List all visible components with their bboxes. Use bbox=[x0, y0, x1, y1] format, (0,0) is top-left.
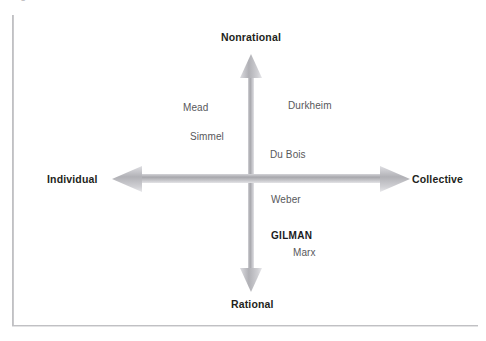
figure-canvas: Figure bbox=[0, 0, 486, 341]
annotation-durkheim: Durkheim bbox=[288, 100, 332, 111]
axis-label-individual: Individual bbox=[47, 173, 98, 185]
axis-label-nonrational: Nonrational bbox=[221, 31, 281, 43]
figure-frame-bottom-rule bbox=[12, 325, 478, 327]
axis-label-collective: Collective bbox=[412, 173, 463, 185]
annotation-du-bois: Du Bois bbox=[270, 149, 306, 160]
annotation-mead: Mead bbox=[183, 102, 208, 113]
annotation-weber: Weber bbox=[271, 194, 301, 205]
annotation-simmel: Simmel bbox=[190, 131, 224, 142]
axis-label-rational: Rational bbox=[231, 298, 274, 310]
figure-frame-left-rule bbox=[12, 15, 14, 327]
double-headed-horizontal-arrow-icon bbox=[112, 160, 410, 198]
annotation-marx: Marx bbox=[293, 247, 316, 258]
annotation-gilman: GILMAN bbox=[271, 230, 312, 241]
figure-caption-fragment: Figure bbox=[12, 0, 41, 1]
